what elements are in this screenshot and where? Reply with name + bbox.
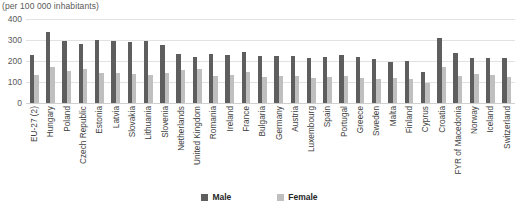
- x-axis-tick: Romania: [205, 105, 221, 177]
- x-axis-tick-label: Portugal: [339, 106, 348, 137]
- bar-female: [262, 77, 266, 103]
- bar-group: [499, 19, 515, 103]
- x-axis-tick: Estonia: [91, 105, 107, 177]
- bar-group: [107, 19, 123, 103]
- bar-group: [91, 19, 107, 103]
- x-axis-tick-label: Ireland: [225, 106, 234, 131]
- x-axis-tick: Switzerland: [499, 105, 515, 177]
- bar-group: [238, 19, 254, 103]
- x-axis-tick-label: Croatia: [437, 106, 446, 133]
- x-axis-tick: Czech Republic: [75, 105, 91, 177]
- x-axis-tick-label: Luxembourg: [307, 106, 316, 152]
- legend-label: Female: [288, 192, 317, 202]
- bar-group: [254, 19, 270, 103]
- x-axis-tick-label: Latvia: [111, 106, 120, 128]
- x-axis-tick-label: United Kingdom: [193, 106, 202, 165]
- x-axis-tick: Malta: [385, 105, 401, 177]
- bar-female: [409, 79, 413, 103]
- bar-group: [59, 19, 75, 103]
- legend-label: Male: [212, 192, 231, 202]
- bar-female: [34, 75, 38, 103]
- x-axis-tick: Latvia: [107, 105, 123, 177]
- x-axis-tick: Croatia: [433, 105, 449, 177]
- x-axis-tick-label: Estonia: [95, 106, 104, 134]
- x-axis-tick-label: Cyprus: [421, 106, 430, 132]
- bar-group: [222, 19, 238, 103]
- legend-item-male[interactable]: Male: [201, 192, 231, 202]
- x-axis-tick-label: Switzerland: [502, 106, 511, 149]
- bar-group: [352, 19, 368, 103]
- bar-group: [450, 19, 466, 103]
- bar-female: [458, 76, 462, 103]
- bar-group: [466, 19, 482, 103]
- bar-female: [295, 76, 299, 103]
- x-axis-tick: Portugal: [336, 105, 352, 177]
- bar-group: [287, 19, 303, 103]
- bar-group: [205, 19, 221, 103]
- x-axis-tick-label: Austria: [290, 106, 299, 132]
- x-axis-tick: Germany: [270, 105, 286, 177]
- y-axis-tick-label: 200: [8, 56, 22, 66]
- bar-group: [173, 19, 189, 103]
- bar-series-container: [26, 19, 515, 103]
- bar-group: [368, 19, 384, 103]
- bar-group: [75, 19, 91, 103]
- x-axis-tick-label: Czech Republic: [79, 106, 88, 164]
- legend-swatch-male-icon: [201, 194, 208, 201]
- x-axis-tick-label: Finland: [404, 106, 413, 133]
- x-axis-tick: Norway: [466, 105, 482, 177]
- x-axis-tick: Slovakia: [124, 105, 140, 177]
- x-axis-tick: Austria: [287, 105, 303, 177]
- x-axis-tick: United Kingdom: [189, 105, 205, 177]
- x-axis-tick-label: Slovenia: [160, 106, 169, 138]
- bar-group: [303, 19, 319, 103]
- bar-female: [327, 77, 331, 103]
- legend-swatch-female-icon: [277, 194, 284, 201]
- x-axis-tick: Sweden: [368, 105, 384, 177]
- x-axis-tick-label: Spain: [323, 106, 332, 127]
- x-axis-tick: Bulgaria: [254, 105, 270, 177]
- bar-female: [393, 78, 397, 103]
- bar-group: [156, 19, 172, 103]
- bar-female: [99, 73, 103, 103]
- bar-group: [417, 19, 433, 103]
- plot-area: [26, 19, 515, 103]
- bar-female: [213, 76, 217, 103]
- y-axis-tick-label: 400: [8, 14, 22, 24]
- bar-female: [50, 67, 54, 103]
- bar-female: [442, 67, 446, 103]
- bar-group: [482, 19, 498, 103]
- bar-group: [26, 19, 42, 103]
- x-axis-tick-label: EU-27 (2): [30, 106, 39, 142]
- chart-units-caption: (per 100 000 inhabitants): [2, 1, 99, 11]
- x-axis-tick-label: Lithuania: [144, 106, 153, 140]
- bar-female: [360, 78, 364, 103]
- bar-group: [401, 19, 417, 103]
- x-axis-tick: Finland: [401, 105, 417, 177]
- bar-female: [344, 76, 348, 103]
- bar-female: [425, 83, 429, 103]
- y-axis-ticks: 0100200300400: [0, 19, 26, 103]
- x-axis-tick-label: Slovakia: [127, 106, 136, 137]
- x-axis-tick: Poland: [59, 105, 75, 177]
- x-axis-tick-label: Germany: [274, 106, 283, 140]
- legend-item-female[interactable]: Female: [277, 192, 317, 202]
- x-axis-tick: Netherlands: [173, 105, 189, 177]
- x-axis-tick: France: [238, 105, 254, 177]
- x-axis-tick: Greece: [352, 105, 368, 177]
- bar-group: [385, 19, 401, 103]
- bar-group: [189, 19, 205, 103]
- x-axis-tick: Luxembourg: [303, 105, 319, 177]
- x-axis-tick-label: Sweden: [372, 106, 381, 136]
- x-axis-tick: Ireland: [222, 105, 238, 177]
- bar-female: [490, 75, 494, 103]
- x-axis-tick: Lithuania: [140, 105, 156, 177]
- bar-female: [311, 78, 315, 103]
- x-axis-tick-label: Netherlands: [176, 106, 185, 151]
- x-axis-tick-label: Greece: [356, 106, 365, 133]
- x-axis-tick: Cyprus: [417, 105, 433, 177]
- bar-female: [230, 75, 234, 103]
- bar-female: [116, 73, 120, 103]
- x-axis-category-labels: EU-27 (2)HungaryPolandCzech RepublicEsto…: [26, 105, 515, 177]
- y-axis-tick-label: 0: [17, 98, 22, 108]
